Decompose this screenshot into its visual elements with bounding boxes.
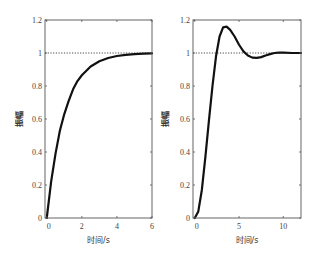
x-tick-label: 4: [115, 222, 119, 231]
axes-box: [45, 20, 152, 218]
x-tick-label: 0: [195, 222, 199, 231]
y-tick-label: 0.4: [32, 148, 42, 157]
y-tick-label: 1.2: [32, 16, 42, 25]
response-curve: [47, 53, 152, 218]
y-axis-label: 振幅: [160, 111, 170, 127]
plot-2: 00.20.40.60.811.20510时间/s振幅: [160, 16, 301, 245]
y-tick-label: 1: [186, 49, 190, 58]
y-axis-label: 振幅: [14, 111, 24, 127]
y-tick-label: 1.2: [180, 16, 190, 25]
x-tick-label: 5: [237, 222, 241, 231]
y-tick-label: 0.6: [32, 115, 42, 124]
chart-canvas: 00.20.40.60.811.20246时间/s振幅00.20.40.60.8…: [0, 0, 316, 259]
response-curve: [195, 27, 301, 218]
y-tick-label: 0.8: [180, 82, 190, 91]
y-tick-label: 0.6: [180, 115, 190, 124]
y-tick-label: 0.2: [32, 181, 42, 190]
x-axis-label: 时间/s: [236, 235, 259, 245]
x-tick-label: 2: [80, 222, 84, 231]
x-axis-label: 时间/s: [87, 235, 110, 245]
y-tick-label: 0.8: [32, 82, 42, 91]
plot-1: 00.20.40.60.811.20246时间/s振幅: [14, 16, 154, 245]
y-tick-label: 1: [38, 49, 42, 58]
y-tick-label: 0: [38, 214, 42, 223]
x-tick-label: 6: [150, 222, 154, 231]
y-tick-label: 0.2: [180, 181, 190, 190]
x-tick-label: 10: [279, 222, 287, 231]
x-tick-label: 0: [47, 222, 51, 231]
y-tick-label: 0: [186, 214, 190, 223]
y-tick-label: 0.4: [180, 148, 190, 157]
